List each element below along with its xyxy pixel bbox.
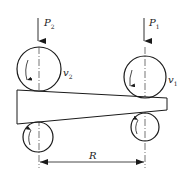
label-v2: v2 [63, 67, 73, 80]
diagram-svg: P2 P1 v2 v1 R [0, 0, 188, 182]
tapered-strip [17, 90, 167, 124]
label-p1: P1 [148, 17, 160, 30]
lower-left-roller [23, 122, 53, 152]
rotation-arrow-icon [26, 60, 28, 80]
label-r: R [88, 150, 97, 161]
rotation-arrow-icon [136, 120, 138, 134]
rolling-diagram: P2 P1 v2 v1 R [0, 0, 188, 182]
label-v1: v1 [168, 74, 177, 87]
rotation-arrow-icon [29, 130, 31, 145]
label-p2: P2 [43, 17, 55, 30]
rotation-arrow-icon [130, 70, 132, 86]
